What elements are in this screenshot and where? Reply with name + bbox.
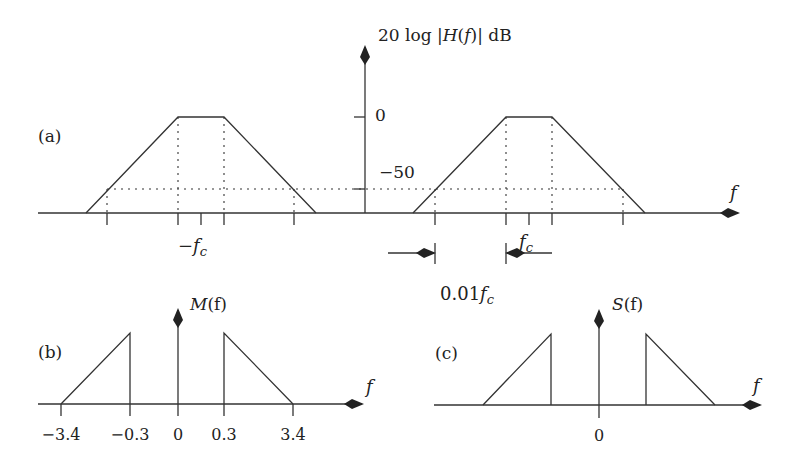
left-passband-trapezoid bbox=[86, 117, 316, 213]
lower-sideband-c bbox=[483, 334, 551, 405]
panel-a bbox=[38, 47, 738, 264]
panel-c-tick-0: 0 bbox=[594, 426, 604, 445]
right-passband-trapezoid bbox=[413, 117, 645, 213]
x-ticks bbox=[107, 213, 623, 225]
svg-text:−3.4: −3.4 bbox=[42, 425, 81, 444]
bandwidth-label: 0.01fc bbox=[440, 283, 495, 307]
panel-c bbox=[434, 311, 760, 418]
svg-text:−0.3: −0.3 bbox=[111, 425, 150, 444]
pos-fc-label: fc bbox=[517, 231, 534, 255]
svg-text:0: 0 bbox=[173, 425, 183, 444]
panel-c-title: S(f) bbox=[612, 294, 643, 314]
tick-label-0: 0 bbox=[375, 105, 386, 125]
tick-label-minus50: −50 bbox=[379, 162, 415, 182]
panel-b-title: M(f) bbox=[189, 294, 227, 314]
neg-fc-label: −fc bbox=[178, 235, 208, 259]
x-axis-label-c: f bbox=[751, 375, 763, 396]
svg-text:3.4: 3.4 bbox=[280, 425, 305, 444]
upper-sideband-c bbox=[646, 334, 715, 405]
panel-c-label: (c) bbox=[435, 343, 458, 363]
panel-a-label: (a) bbox=[38, 126, 61, 146]
panel-b-label: (b) bbox=[38, 342, 62, 362]
x-axis-label-a: f bbox=[728, 182, 740, 203]
y-axis-label: 20 log |H(f)| dB bbox=[378, 25, 512, 45]
svg-text:0.3: 0.3 bbox=[211, 425, 236, 444]
panel-b-ticks: −3.4 −0.3 0 0.3 3.4 bbox=[42, 425, 306, 444]
panel-b bbox=[38, 310, 362, 416]
x-axis-label-b: f bbox=[364, 376, 376, 397]
figure: (a) 20 log |H(f)| dB 0 −50 f −fc fc 0.01… bbox=[0, 0, 797, 466]
